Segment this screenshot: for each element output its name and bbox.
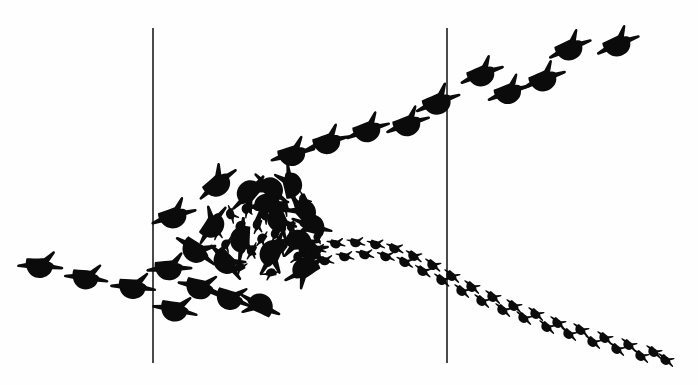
track-diagram-canvas <box>0 0 698 385</box>
bird-track-figure <box>0 0 698 385</box>
figure-background <box>0 0 698 385</box>
